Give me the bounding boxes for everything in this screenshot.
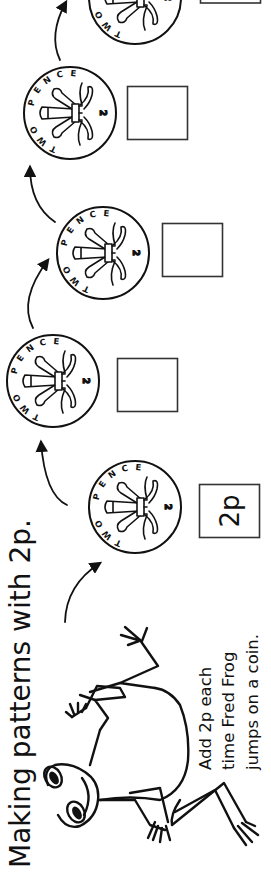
answer-box-step-4[interactable] xyxy=(128,87,188,140)
worksheet-title: Making patterns with 2p. xyxy=(4,519,37,868)
coin-step-4 xyxy=(24,67,116,159)
answer-text-step-1: 2p xyxy=(215,494,245,527)
answer-box-step-1[interactable]: 2p xyxy=(200,485,260,538)
coin-step-2 xyxy=(7,335,99,427)
coin-step-1 xyxy=(89,461,181,553)
coin-step-3 xyxy=(57,207,149,299)
worksheet: 2 P E N C E O W T Making patterns with 2… xyxy=(0,0,271,875)
answer-box-step-2[interactable] xyxy=(118,359,178,412)
answer-box-step-3[interactable] xyxy=(163,224,223,277)
answer-box-step-5[interactable] xyxy=(201,0,261,3)
instruction-line-1: Add 2p each xyxy=(196,667,215,770)
instruction-line-3: jumps on a coin. xyxy=(243,634,262,771)
instruction-line-2: time Fred Frog xyxy=(219,652,238,770)
